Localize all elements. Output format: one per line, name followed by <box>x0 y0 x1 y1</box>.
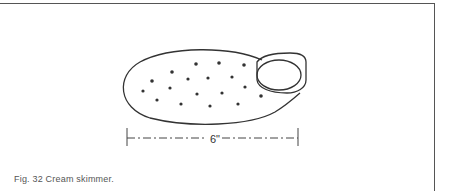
figure-caption: Fig. 32 Cream skimmer. <box>14 174 114 184</box>
skimmer-handle <box>257 53 306 93</box>
skimmer-holes <box>141 61 262 107</box>
cream-skimmer-illustration: 6" <box>0 0 456 191</box>
dimension-label: 6" <box>210 133 220 145</box>
